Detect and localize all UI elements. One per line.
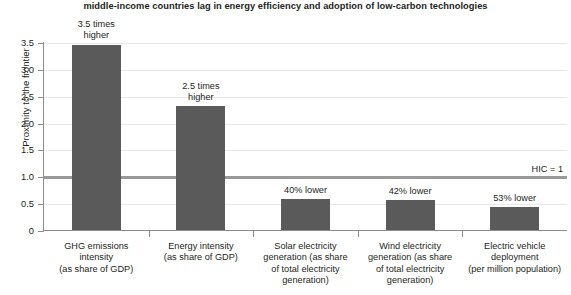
category-label: Electric vehicledeployment(per million p…: [463, 241, 566, 275]
category-label: Solar electricitygeneration (as shareof …: [254, 241, 357, 286]
bar-value-label: 42% lower: [355, 186, 465, 197]
category-label-line: Solar electricity: [254, 241, 357, 252]
bar: [281, 199, 330, 231]
category-label-line: generation (as share: [254, 252, 357, 263]
bar-value-label-line: 3.5 times: [41, 19, 151, 30]
gridline: [44, 43, 567, 44]
bar-value-label-line: 40% lower: [251, 185, 361, 196]
x-tick-mark: [149, 231, 150, 237]
y-tick-label: 3.5: [0, 38, 34, 47]
x-tick-mark: [358, 231, 359, 237]
gridline: [44, 150, 567, 151]
category-label: GHG emissionsintensity(as share of GDP): [45, 241, 148, 275]
category-label: Wind electricitygeneration (as shareof t…: [359, 241, 462, 286]
bar-value-label-line: 2.5 times: [146, 81, 256, 92]
category-label: Energy intensity(as share of GDP): [150, 241, 253, 264]
category-label-line: (as share of GDP): [45, 264, 148, 275]
category-label-line: generation): [254, 275, 357, 286]
category-label-line: of total electricity: [254, 264, 357, 275]
y-tick-label: 2.0: [0, 119, 34, 128]
y-tick-label: 0.5: [0, 199, 34, 208]
y-tick-mark: [38, 43, 43, 44]
chart-figure: middle-income countries lag in energy ef…: [0, 0, 571, 295]
bar: [176, 106, 225, 231]
y-tick-label: 1.0: [0, 172, 34, 181]
gridline: [44, 97, 567, 98]
y-axis-line: [43, 42, 44, 232]
y-tick-mark: [38, 177, 43, 178]
bar: [490, 207, 539, 231]
category-label-line: Electric vehicle: [463, 241, 566, 252]
category-label-line: Energy intensity: [150, 241, 253, 252]
category-label-line: generation): [359, 275, 462, 286]
y-tick-mark: [38, 204, 43, 205]
y-tick-mark: [38, 150, 43, 151]
bar-value-label: 2.5 timeshigher: [146, 81, 256, 103]
bar: [72, 45, 121, 231]
y-tick-mark: [38, 231, 43, 232]
y-tick-mark: [38, 70, 43, 71]
y-tick-label: 1.5: [0, 145, 34, 154]
bar-value-label-line: higher: [41, 30, 151, 41]
y-tick-mark: [38, 124, 43, 125]
category-label-line: generation (as share: [359, 252, 462, 263]
x-axis-line: [43, 230, 567, 231]
bar-value-label: 53% lower: [460, 193, 570, 204]
bar-value-label: 40% lower: [251, 185, 361, 196]
category-label-line: Wind electricity: [359, 241, 462, 252]
category-label-line: (per million population): [463, 264, 566, 275]
gridline: [44, 70, 567, 71]
y-tick-label: 2.5: [0, 92, 34, 101]
category-label-line: intensity: [45, 252, 148, 263]
bar-value-label: 3.5 timeshigher: [41, 19, 151, 41]
x-tick-mark: [462, 231, 463, 237]
reference-line-label: HIC = 1: [532, 164, 563, 174]
y-tick-label: 0: [0, 226, 34, 235]
y-tick-label: 3.0: [0, 65, 34, 74]
chart-title: middle-income countries lag in energy ef…: [0, 1, 571, 11]
reference-line: [44, 176, 567, 179]
category-label-line: (as share of GDP): [150, 252, 253, 263]
bar-value-label-line: higher: [146, 92, 256, 103]
bar-value-label-line: 42% lower: [355, 186, 465, 197]
x-tick-mark: [253, 231, 254, 237]
category-label-line: of total electricity: [359, 264, 462, 275]
gridline: [44, 124, 567, 125]
category-label-line: deployment: [463, 252, 566, 263]
category-label-line: GHG emissions: [45, 241, 148, 252]
bar-value-label-line: 53% lower: [460, 193, 570, 204]
y-tick-mark: [38, 97, 43, 98]
bar: [386, 200, 435, 231]
